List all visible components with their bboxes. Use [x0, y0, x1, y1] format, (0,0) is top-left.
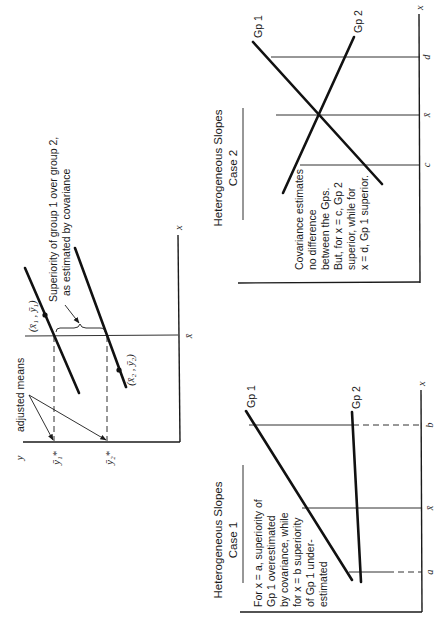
case2-note-line: no difference	[306, 209, 318, 270]
case2-title-line2: Case 2	[227, 150, 239, 186]
case2-note-line: But, for x = c, Gp 2	[332, 182, 344, 270]
superiority-brace	[56, 324, 105, 332]
superiority-arrow	[65, 305, 79, 323]
case2-gp2-label: Gp 2	[352, 10, 364, 33]
case1-tick-b: b	[424, 422, 435, 427]
case1-x-axis	[421, 390, 422, 612]
case2-note-line: Covariance estimates	[293, 169, 305, 270]
case2-title-line1: Heterogeneous Slopes	[212, 109, 224, 226]
case2-x-axis-label: x	[414, 5, 425, 11]
y-axis-label: y	[14, 455, 25, 461]
case1-note: For x = a, superiority of Gp 1 overestim…	[252, 499, 329, 607]
case1-note-line: Gp 1 overestimated	[265, 515, 277, 607]
case2-note-line: superior, while for	[345, 187, 357, 270]
case1-note-line: of Gp 1 under-	[304, 539, 316, 607]
case2-tick-d: d	[421, 54, 432, 60]
figure-canvas: y x x̄ ȳ₁* ȳ₂* adjusted means (x̄₁ , ȳ₁)…	[0, 0, 446, 622]
x-axis	[178, 235, 180, 442]
group2-mean-label: (x̄₂ , ȳ₂)	[125, 354, 137, 386]
y1-adjusted-label: ȳ₁*	[51, 450, 62, 465]
group1-mean-label: (x̄₁ , ȳ₁)	[27, 300, 39, 332]
superiority-label-line1: Superiority of group 1 over group 2,	[47, 137, 59, 302]
case2-tick-c: c	[421, 162, 432, 167]
case1-note-line: For x = a, superiority of	[252, 499, 264, 607]
case2-gp1-line	[253, 42, 382, 184]
case2-y-axis	[238, 282, 420, 283]
group1-mean-point	[42, 312, 47, 317]
case1-x-axis-label: x	[416, 381, 427, 387]
case2-gp1-label: Gp 1	[252, 15, 264, 38]
case1-diagram: Heterogeneous Slopes Case 1 x a x̄ b Gp …	[212, 381, 435, 612]
superiority-label-line2: as estimated by covariance	[60, 169, 72, 296]
case2-diagram: Heterogeneous Slopes Case 2 x c x̄ d Gp …	[212, 5, 432, 283]
case1-title-line1: Heterogeneous Slopes	[212, 481, 224, 598]
case1-gp2-label: Gp 2	[350, 386, 362, 409]
group2-regression-line	[75, 248, 126, 387]
case2-note-line: between the Gps.	[319, 188, 331, 270]
xbar-label: x̄	[183, 333, 194, 339]
case1-note-line: for x = b superiority	[291, 517, 303, 607]
case1-note-line: estimated	[317, 561, 329, 607]
case2-note-line: x = d, Gp 1 superior.	[358, 175, 370, 270]
case2-x-axis	[419, 14, 420, 283]
case1-tick-xbar: x̄	[424, 505, 435, 511]
case1-gp2-line	[352, 412, 361, 582]
xbar-line	[25, 335, 178, 336]
x-axis-label: x	[173, 225, 184, 231]
adjusted-means-label: adjusted means	[14, 358, 26, 432]
case2-note: Covariance estimates no difference betwe…	[293, 169, 370, 270]
group2-mean-point	[116, 367, 121, 372]
adjusted-means-diagram: y x x̄ ȳ₁* ȳ₂* adjusted means (x̄₁ , ȳ₁)…	[14, 137, 194, 466]
case1-gp1-label: Gp 1	[245, 385, 257, 408]
y2-adjusted-label: ȳ₂*	[104, 450, 115, 465]
case2-tick-xbar: x̄	[421, 112, 432, 118]
case1-title-line2: Case 1	[227, 522, 239, 558]
case1-note-line: by covariance, while	[278, 512, 290, 607]
case1-tick-a: a	[424, 569, 435, 574]
